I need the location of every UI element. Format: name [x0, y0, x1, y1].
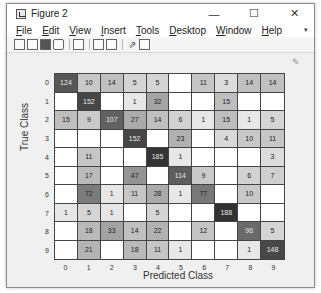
matrix-cell: 17	[78, 167, 101, 186]
matrix-cell: 1	[101, 204, 124, 223]
matrix-cell: 72	[78, 185, 101, 204]
matrix-cell: 10	[238, 130, 261, 149]
brush-icon[interactable]: ✎	[292, 57, 300, 67]
menu-edit[interactable]: Edit	[42, 25, 59, 36]
minimize-button[interactable]: —	[194, 4, 234, 23]
matrix-cell: 32	[147, 93, 170, 112]
new-figure-icon[interactable]	[14, 39, 25, 50]
matrix-cell	[124, 148, 147, 167]
menu-tools[interactable]: Tools	[136, 25, 159, 36]
close-button[interactable]: ✕	[274, 4, 314, 23]
matrix-cell	[192, 204, 215, 223]
matrix-cell	[215, 185, 238, 204]
matrix-cell	[215, 241, 238, 260]
menu-help[interactable]: Help	[262, 25, 283, 36]
matrix-cell	[101, 148, 124, 167]
y-tick-label: 5	[39, 167, 49, 186]
matrix-cell: 23	[169, 130, 192, 149]
matrix-cell: 5	[261, 222, 284, 241]
menu-window[interactable]: Window	[216, 25, 252, 36]
matrix-cell: 114	[169, 167, 192, 186]
matrix-cell: 152	[78, 93, 101, 112]
matrix-cell: 1	[169, 148, 192, 167]
matrix-cell: 15	[55, 111, 78, 130]
menu-overflow-arrow-icon[interactable]: ▾	[304, 26, 308, 34]
open-file-icon[interactable]	[27, 39, 38, 50]
matrix-cell: 14	[238, 74, 261, 93]
y-tick-label: 0	[39, 73, 49, 92]
matrix-cell: 1	[238, 241, 261, 260]
y-tick-label: 1	[39, 92, 49, 111]
matrix-cell	[169, 74, 192, 93]
y-tick-label: 7	[39, 204, 49, 223]
matrix-cell: 148	[261, 241, 284, 260]
matrix-cell	[124, 204, 147, 223]
matrix-cell: 14	[101, 74, 124, 93]
x-tick-label: 2	[100, 261, 123, 271]
matrix-cell: 152	[124, 130, 147, 149]
x-tick-label: 8	[239, 261, 262, 271]
y-tick-label: 8	[39, 223, 49, 242]
matrix-cell: 10	[238, 185, 261, 204]
matrix-cell: 96	[238, 222, 261, 241]
x-axis-label: Predicted Class	[143, 270, 213, 281]
matrix-cell: 15	[215, 93, 238, 112]
matrix-cell: 7	[261, 167, 284, 186]
matrix-cell	[55, 185, 78, 204]
x-tick-label: 7	[216, 261, 239, 271]
menu-insert[interactable]: Insert	[101, 25, 126, 36]
matrix-cell	[238, 148, 261, 167]
matrix-cell: 11	[78, 148, 101, 167]
property-editor-icon[interactable]	[139, 39, 150, 50]
insert-colorbar-icon[interactable]	[106, 39, 117, 50]
matrix-cell: 1	[55, 204, 78, 223]
toolbar-separator	[89, 39, 90, 50]
print-preview-icon[interactable]	[73, 39, 84, 50]
matrix-cell: 33	[101, 222, 124, 241]
matrix-cell	[101, 167, 124, 186]
matrix-cell: 22	[147, 222, 170, 241]
matrix-cell	[101, 130, 124, 149]
matrix-cell	[192, 93, 215, 112]
matrix-cell: 12	[192, 222, 215, 241]
print-icon[interactable]	[53, 39, 64, 50]
maximize-button[interactable]: ☐	[234, 4, 274, 23]
matrix-cell: 14	[124, 222, 147, 241]
matrix-cell	[147, 167, 170, 186]
matrix-cell: 11	[124, 185, 147, 204]
matrix-cell: 185	[147, 148, 170, 167]
matrix-cell	[192, 148, 215, 167]
toolbar-separator	[122, 39, 123, 50]
window-title: Figure 2	[31, 8, 68, 19]
matrix-cell	[55, 148, 78, 167]
matrix-cell	[192, 241, 215, 260]
matrix-cell: 28	[147, 185, 170, 204]
menu-view[interactable]: View	[69, 25, 91, 36]
y-tick-label: 4	[39, 148, 49, 167]
matrix-cell	[101, 241, 124, 260]
title-bar[interactable]: Figure 2 — ☐ ✕	[7, 4, 314, 23]
matrix-cell: 14	[261, 74, 284, 93]
menu-desktop[interactable]: Desktop	[169, 25, 206, 36]
matrix-cell: 6	[238, 167, 261, 186]
menu-file[interactable]: File	[16, 25, 32, 36]
matrix-cell	[238, 204, 261, 223]
matrix-cell	[147, 130, 170, 149]
matrix-cell: 27	[124, 111, 147, 130]
matrix-cell: 1	[192, 111, 215, 130]
matrix-cell: 1	[101, 185, 124, 204]
x-tick-label: 0	[54, 261, 77, 271]
save-icon[interactable]	[40, 39, 51, 50]
matrix-cell: 188	[215, 204, 238, 223]
matrix-cell	[55, 222, 78, 241]
matrix-cell: 3	[215, 74, 238, 93]
matrix-cell	[101, 93, 124, 112]
matrix-cell	[169, 204, 192, 223]
matrix-cell: 9	[78, 111, 101, 130]
link-plot-icon[interactable]	[93, 39, 104, 50]
matrix-cell: 11	[192, 74, 215, 93]
pointer-icon[interactable]: ⇗	[126, 39, 137, 50]
matrix-cell: 5	[124, 74, 147, 93]
x-tick-label: 1	[77, 261, 100, 271]
matrix-cell: 11	[261, 130, 284, 149]
